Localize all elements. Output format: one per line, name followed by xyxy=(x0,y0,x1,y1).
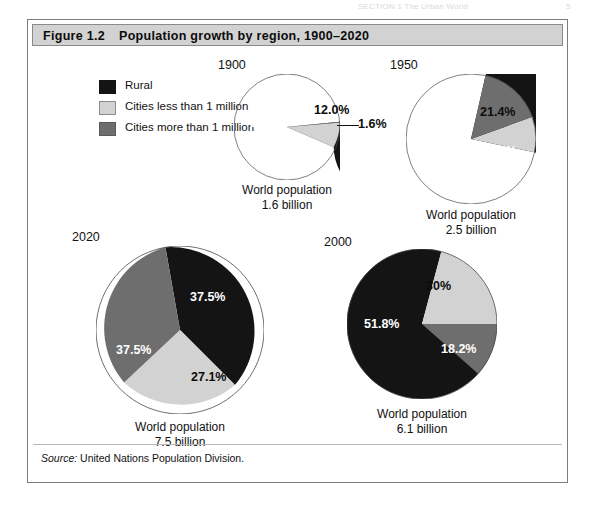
pie-label-1950-cities-less-1m: 21.4% xyxy=(480,105,515,119)
pie-chart-2000: 2000 51.8% 30% 18.2% World population 6.… xyxy=(311,235,531,445)
pie-label-2000-cities-more-1m: 18.2% xyxy=(441,342,476,356)
pie-caption-2020-line1: World population xyxy=(97,420,263,435)
page-number: 5 xyxy=(566,2,571,11)
pie-chart-1950: 1950 71.1% 21.4% 7.5% World population 2… xyxy=(376,58,556,228)
pie-chart-1900: 1900 86.4% 12.0% 1.6% World population 1… xyxy=(206,58,366,198)
pie-caption-1900: World population 1.6 billion xyxy=(204,183,370,212)
figure-number: Figure 1.2 xyxy=(43,29,105,43)
pie-caption-2000-line2: 6.1 billion xyxy=(339,422,505,437)
pie-label-2020-rural: 37.5% xyxy=(190,290,225,304)
figure-title-bar: Figure 1.2 Population growth by region, … xyxy=(32,24,563,46)
legend-label-rural: Rural xyxy=(125,79,152,91)
source-divider xyxy=(33,444,562,445)
source-text: United Nations Population Division. xyxy=(80,452,244,464)
pie-label-2020-cities-more-1m: 37.5% xyxy=(116,343,151,357)
pie-label-2000-cities-less-1m: 30% xyxy=(426,279,451,293)
legend-swatch-rural xyxy=(99,80,116,94)
pie-caption-2020-line2: 7.5 billion xyxy=(97,435,263,450)
page-header: SECTION 1 The Urban World 5 xyxy=(0,0,592,16)
pie-chart-2020: 2020 37.5% 27.1% 37.5% World population … xyxy=(63,230,293,450)
pie-year-2000: 2000 xyxy=(324,235,352,249)
pie-caption-1950: World population 2.5 billion xyxy=(388,208,554,237)
pie-svg-1950 xyxy=(406,74,536,204)
pie-caption-1900-line1: World population xyxy=(204,183,370,198)
pie-year-1900: 1900 xyxy=(218,58,246,72)
legend-swatch-cities-less-1m xyxy=(99,101,116,115)
pie-label-1900-rural: 86.4% xyxy=(250,116,285,130)
pie-year-1950: 1950 xyxy=(390,58,418,72)
page-header-section: SECTION 1 The Urban World xyxy=(358,2,468,11)
pie-label-1950-rural: 71.1% xyxy=(418,144,453,158)
figure-title: Population growth by region, 1900–2020 xyxy=(119,29,369,43)
source-line: Source: United Nations Population Divisi… xyxy=(41,452,244,464)
figure-container: Figure 1.2 Population growth by region, … xyxy=(27,19,568,483)
pie-caption-2000: World population 6.1 billion xyxy=(339,407,505,436)
pie-caption-1950-line1: World population xyxy=(388,208,554,223)
pie-label-2000-rural: 51.8% xyxy=(364,317,399,331)
legend-swatch-cities-more-1m xyxy=(99,122,116,136)
pie-caption-1900-line2: 1.6 billion xyxy=(204,198,370,213)
pie-label-1950-cities-more-1m: 7.5% xyxy=(488,144,517,158)
pie-year-2020: 2020 xyxy=(72,230,100,244)
source-prefix: Source: xyxy=(41,452,77,464)
pie-svg-2020 xyxy=(96,246,264,414)
pie-label-1900-cities-less-1m: 12.0% xyxy=(314,103,349,117)
pie-label-2020-cities-less-1m: 27.1% xyxy=(191,370,226,384)
pie-leader-line-1900 xyxy=(337,125,359,126)
pie-caption-2000-line1: World population xyxy=(339,407,505,422)
